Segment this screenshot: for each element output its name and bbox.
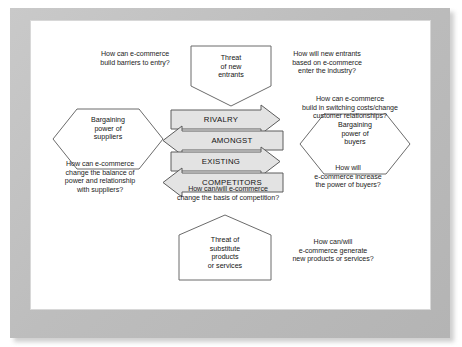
- question-buyer-power: How will e-commerce increase the power o…: [293, 164, 403, 190]
- question-entry-barriers: How can e-commerce build barriers to ent…: [87, 50, 183, 67]
- five-forces-diagram: RIVALRY AMONGST EXISTING COMPETITORS Thr…: [31, 21, 430, 309]
- band-label-existing: EXISTING: [171, 157, 271, 167]
- label-bargaining-power-of-suppliers: Bargaining power of suppliers: [69, 116, 147, 142]
- band-label-amongst: AMONGST: [182, 136, 282, 146]
- label-threat-of-new-entrants: Threat of new entrants: [191, 54, 271, 80]
- question-supplier-power: How can e-commerce change the balance of…: [45, 160, 155, 194]
- question-new-entrants-industry: How will new entrants based on e-commerc…: [274, 50, 380, 76]
- question-basis-of-competition: How can/will e-commerce change the basis…: [155, 185, 301, 202]
- label-threat-of-substitutes: Threat of substitute products or service…: [183, 236, 267, 270]
- question-switching-costs: How can e-commerce build in switching co…: [279, 95, 421, 121]
- band-label-rivalry: RIVALRY: [171, 115, 271, 125]
- label-bargaining-power-of-buyers: Bargaining power of buyers: [316, 121, 394, 147]
- figure-root: RIVALRY AMONGST EXISTING COMPETITORS Thr…: [0, 0, 462, 347]
- question-new-products: How can/will e-commerce generate new pro…: [273, 238, 393, 264]
- diagram-page: RIVALRY AMONGST EXISTING COMPETITORS Thr…: [31, 21, 430, 309]
